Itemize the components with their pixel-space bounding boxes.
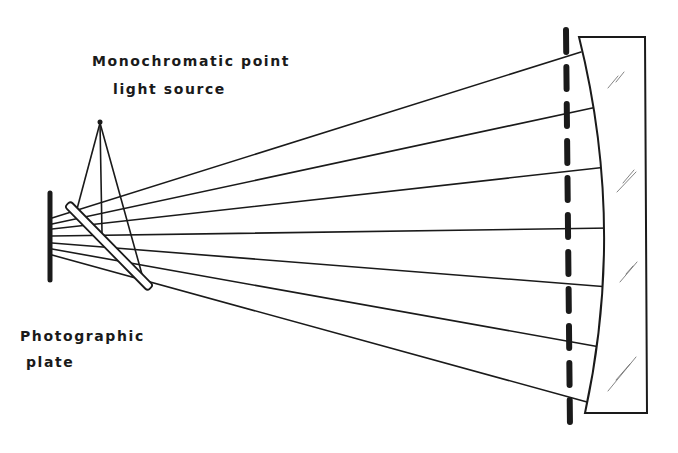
point-light-source [98, 120, 103, 125]
plate-label-line2: plate [26, 353, 74, 371]
rays [52, 52, 611, 402]
beam-splitter [65, 201, 153, 291]
light-source-label-line1: Monochromatic point [92, 52, 290, 70]
light-source-label-line2: light source [113, 80, 226, 98]
aperture-stop [566, 30, 570, 428]
concave-mirror [579, 37, 647, 413]
plate-label-line1: Photographic [20, 327, 145, 345]
